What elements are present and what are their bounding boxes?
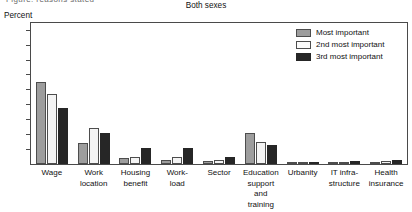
- bar: [36, 82, 46, 164]
- y-axis-tick-mark: [26, 89, 30, 90]
- legend-item: 2nd most important: [296, 40, 384, 49]
- x-axis-label: Education support and training: [240, 168, 282, 210]
- y-axis-tick-mark: [26, 60, 30, 61]
- bar: [339, 162, 349, 164]
- legend-item-label: 2nd most important: [316, 40, 384, 49]
- swatch-most-important: [296, 29, 311, 37]
- y-axis-tick-mark: [26, 119, 30, 120]
- bar: [245, 133, 255, 164]
- y-axis-tick-mark: [26, 134, 30, 135]
- bar: [392, 160, 402, 164]
- bar: [58, 108, 68, 164]
- legend-item-label: Most important: [316, 28, 369, 37]
- bar: [141, 148, 151, 164]
- bar: [161, 160, 171, 164]
- y-axis-tick-mark: [26, 74, 30, 75]
- legend-item: Most important: [296, 28, 384, 37]
- x-axis-label: Health insurance: [365, 168, 407, 210]
- y-axis-tick-mark: [26, 30, 30, 31]
- x-axis-label: Housing benefit: [115, 168, 157, 210]
- y-axis-tick-mark: [26, 45, 30, 46]
- bar: [183, 148, 193, 164]
- bar-group: [73, 23, 115, 164]
- legend-item-label: 3rd most important: [316, 52, 383, 61]
- bar: [225, 157, 235, 164]
- bar: [78, 143, 88, 164]
- chart-title: Both sexes: [0, 1, 412, 10]
- x-axis-labels: WageWork locationHousing benefitWork- lo…: [31, 168, 407, 210]
- y-axis-tick-mark: [26, 149, 30, 150]
- bar: [287, 162, 297, 164]
- swatch-2nd-most-important: [296, 41, 311, 49]
- bar: [203, 161, 213, 164]
- bar: [267, 145, 277, 164]
- bar: [381, 161, 391, 164]
- bar: [214, 160, 224, 164]
- x-axis-label: IT infra- structure: [323, 168, 365, 210]
- bar: [298, 162, 308, 164]
- chart-root: Figure: reasons stated Both sexes Percen…: [0, 0, 412, 212]
- bar-group: [115, 23, 157, 164]
- swatch-3rd-most-important: [296, 53, 311, 61]
- x-axis-label: Wage: [31, 168, 73, 210]
- y-axis-unit-label: Percent: [4, 11, 32, 20]
- bar: [172, 157, 182, 164]
- y-axis-tick-mark: [26, 104, 30, 105]
- x-axis-label: Urbanity: [282, 168, 324, 210]
- bar-group: [240, 23, 282, 164]
- bar: [370, 162, 380, 164]
- bar: [119, 158, 129, 164]
- x-axis-label: Work location: [73, 168, 115, 210]
- bar: [350, 161, 360, 164]
- bar: [328, 162, 338, 164]
- bar: [100, 133, 110, 164]
- bar: [47, 94, 57, 164]
- bar: [256, 142, 266, 164]
- bar-group: [156, 23, 198, 164]
- bar-group: [198, 23, 240, 164]
- bar-group: [31, 23, 73, 164]
- x-axis-label: Sector: [198, 168, 240, 210]
- bar: [309, 162, 319, 164]
- bar: [89, 128, 99, 164]
- bar: [130, 157, 140, 164]
- legend-item: 3rd most important: [296, 52, 384, 61]
- chart-legend: Most important2nd most important3rd most…: [296, 28, 384, 61]
- x-axis-label: Work- load: [156, 168, 198, 210]
